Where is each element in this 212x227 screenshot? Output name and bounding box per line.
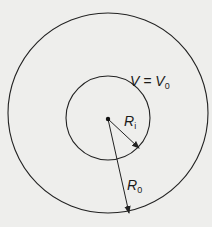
inner-radius-label: Ri: [124, 114, 136, 131]
center-point: [106, 117, 110, 121]
diagram-canvas: [0, 0, 212, 227]
outer-circle: [8, 13, 208, 213]
potential-label-sub: 0: [165, 81, 170, 91]
outer-radius-label-main: R: [127, 177, 137, 193]
outer-radius-label: R0: [127, 178, 142, 195]
outer-radius-label-sub: 0: [137, 185, 142, 195]
inner-radius-label-sub: i: [134, 121, 136, 131]
potential-label-main: V = V: [130, 73, 165, 89]
outer-radius-arrow: [108, 119, 129, 213]
concentric-circles-diagram: V = V0 Ri R0: [0, 0, 212, 227]
potential-label: V = V0: [130, 74, 170, 91]
inner-radius-label-main: R: [124, 113, 134, 129]
